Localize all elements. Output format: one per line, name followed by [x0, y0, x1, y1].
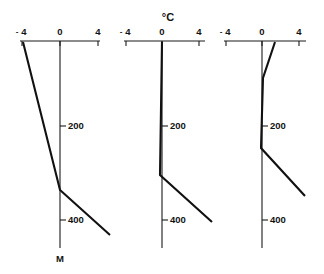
panel-right-xtick-label-4: 4: [296, 26, 302, 37]
panel-middle: - 4 0 4 200 400: [120, 26, 212, 248]
panel-right-temperature-curve: [261, 42, 305, 196]
panel-left-depth-label-400: 400: [68, 214, 84, 225]
panel-left-depth-unit-label: M: [56, 253, 64, 264]
panel-left-xtick-label-4: 4: [95, 26, 101, 37]
panel-middle-xtick-label-4: 4: [196, 26, 202, 37]
panel-middle-temperature-curve: [160, 42, 212, 222]
chart-title-degrees-celsius: °C: [162, 11, 174, 23]
panel-left-xtick-label--4: 4: [21, 26, 27, 37]
panel-middle-xtick-label--4-sign: -: [120, 27, 123, 36]
panel-left: - 4 0 4 200 400 M: [16, 26, 110, 264]
panel-left-depth-label-200: 200: [68, 120, 84, 131]
panel-left-xtick-label-0: 0: [57, 26, 62, 37]
profile-chart-svg: °C - 4 0 4 200 400 M: [0, 0, 324, 274]
panel-left-xtick-label--4-sign: -: [16, 27, 19, 36]
panel-middle-depth-label-400: 400: [170, 214, 186, 225]
panel-middle-depth-label-200: 200: [170, 120, 186, 131]
panel-right-xtick-label-0: 0: [259, 26, 264, 37]
panel-middle-xtick-label-0: 0: [159, 26, 164, 37]
panel-right-xtick-label--4: 4: [225, 26, 231, 37]
panel-right-xtick-label--4-sign: -: [220, 27, 223, 36]
panel-middle-xtick-label--4: 4: [125, 26, 131, 37]
panel-right-depth-label-400: 400: [270, 214, 286, 225]
panel-right-depth-label-200: 200: [270, 120, 286, 131]
temperature-depth-profile-figure: °C - 4 0 4 200 400 M: [0, 0, 324, 274]
panel-right: - 4 0 4 200 400: [220, 26, 306, 248]
panel-left-temperature-curve: [23, 42, 110, 235]
